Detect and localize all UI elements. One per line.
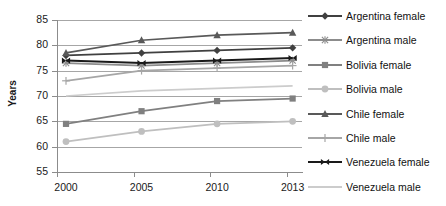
y-tick-label: 70 [22, 89, 48, 101]
data-point-marker [63, 138, 70, 145]
series-line [66, 99, 293, 124]
life-expectancy-line-chart: Years 55606570758085 2000200520102013 Ar… [0, 0, 446, 206]
x-tick-label: 2010 [197, 181, 237, 193]
y-tick-label: 75 [22, 64, 48, 76]
legend-item-argentina-male[interactable]: Argentina male [306, 28, 417, 52]
legend-label: Venezuela female [346, 156, 429, 168]
legend-label: Argentina female [346, 10, 425, 22]
legend-swatch-bowtie-icon [306, 155, 344, 169]
x-tick-label: 2005 [122, 181, 162, 193]
legend-swatch-triangle-icon [306, 107, 344, 121]
y-tick-label: 65 [22, 114, 48, 126]
series-line [66, 86, 293, 96]
data-point-marker [214, 98, 220, 104]
data-point-marker [289, 44, 296, 51]
legend-label: Bolivia male [346, 83, 403, 95]
x-tick-mark [134, 172, 135, 177]
data-point-marker [138, 128, 145, 135]
legend-swatch-circle-icon [306, 82, 344, 96]
legend-item-bolivia-female[interactable]: Bolivia female [306, 53, 411, 77]
legend-swatch-asterisk-icon [306, 33, 344, 47]
data-point-marker [290, 95, 296, 101]
series-line [66, 121, 293, 141]
series-line [66, 48, 293, 56]
data-point-marker [289, 118, 296, 125]
legend-label: Venezuela male [346, 181, 421, 193]
x-axis-line [57, 172, 303, 173]
legend-swatch-diamond-icon [306, 9, 344, 23]
legend-item-venezuela-male[interactable]: Venezuela male [306, 175, 421, 199]
legend-label: Argentina male [346, 34, 417, 46]
x-tick-mark [210, 172, 211, 177]
data-point-marker [63, 121, 69, 127]
data-series-layer [57, 20, 302, 172]
series-argentina-female [62, 44, 296, 59]
y-tick-label: 55 [22, 165, 48, 177]
legend-item-venezuela-female[interactable]: Venezuela female [306, 150, 429, 174]
legend-item-argentina-female[interactable]: Argentina female [306, 4, 425, 28]
data-point-marker [213, 47, 220, 54]
legend-swatch-none-icon [306, 180, 344, 194]
series-venezuela-male [66, 86, 293, 96]
legend-item-chile-female[interactable]: Chile female [306, 102, 404, 126]
legend-label: Bolivia female [346, 59, 411, 71]
x-tick-mark [287, 172, 288, 177]
data-point-marker [62, 77, 70, 85]
data-point-marker [138, 108, 144, 114]
legend-item-bolivia-male[interactable]: Bolivia male [306, 77, 403, 101]
data-point-marker [214, 120, 221, 127]
legend-item-chile-male[interactable]: Chile male [306, 126, 396, 150]
x-tick-mark [57, 172, 58, 177]
legend-label: Chile female [346, 108, 404, 120]
legend-label: Chile male [346, 132, 396, 144]
y-axis-title: Years [7, 59, 18, 129]
legend-swatch-square-icon [306, 58, 344, 72]
y-tick-label: 80 [22, 38, 48, 50]
data-point-marker [138, 49, 145, 56]
x-tick-label: 2000 [46, 181, 86, 193]
y-tick-label: 85 [22, 13, 48, 25]
legend-swatch-plus-icon [306, 131, 344, 145]
chart-legend: Argentina femaleArgentina maleBolivia fe… [306, 4, 446, 202]
series-bolivia-male [63, 118, 296, 145]
y-tick-label: 60 [22, 140, 48, 152]
series-line [66, 66, 293, 81]
series-line [66, 33, 293, 53]
